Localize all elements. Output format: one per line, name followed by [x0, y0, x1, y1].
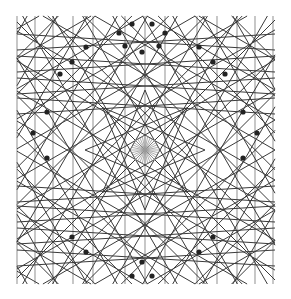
intersection-dot	[69, 234, 74, 239]
intersection-dot	[196, 44, 201, 49]
intersection-dot	[162, 30, 167, 35]
intersection-dot	[69, 59, 74, 64]
intersection-dot	[83, 44, 88, 49]
intersection-dot	[254, 130, 259, 135]
intersection-dot	[240, 109, 245, 114]
intersection-dot	[210, 234, 215, 239]
diagonal-line	[17, 271, 39, 284]
intersection-dot	[222, 71, 227, 76]
intersection-dot	[44, 109, 49, 114]
intersection-dot	[240, 155, 245, 160]
intersection-dot	[149, 273, 154, 278]
intersection-dot	[129, 273, 134, 278]
diagonal-line	[195, 16, 275, 96]
intersection-dot	[149, 21, 154, 26]
intersection-dot	[139, 259, 144, 264]
diagonal-line	[17, 16, 39, 29]
diagonal-line	[17, 31, 275, 180]
geometric-pattern	[0, 0, 291, 299]
diagonal-line	[173, 16, 275, 193]
diagonal-line	[17, 120, 275, 269]
pattern-canvas	[0, 0, 291, 299]
intersection-dot	[30, 130, 35, 135]
intersection-dot	[57, 71, 62, 76]
intersection-dot	[83, 249, 88, 254]
intersection-dot	[129, 21, 134, 26]
intersection-dot	[139, 49, 144, 54]
diagonal-line	[173, 107, 275, 284]
center-starburst	[131, 136, 159, 164]
diagonal-line	[147, 16, 275, 90]
intersection-dot	[156, 43, 161, 48]
intersection-dot	[210, 59, 215, 64]
intersection-dot	[44, 155, 49, 160]
diagonal-line	[232, 241, 275, 284]
diagonal-line	[147, 210, 275, 284]
intersection-dot	[122, 43, 127, 48]
intersection-dot	[116, 30, 121, 35]
diagonal-line	[195, 204, 275, 284]
intersection-dot	[196, 249, 201, 254]
diagonal-line	[232, 16, 275, 59]
